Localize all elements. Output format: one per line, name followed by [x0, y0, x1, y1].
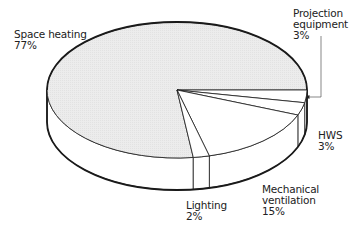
slice-lighting-side: [193, 156, 209, 190]
pie-chart: Space heating 77% Projection equipment 3…: [0, 0, 357, 238]
mech-vent-pct: 15%: [262, 206, 319, 217]
label-projection-equipment: Projection equipment 3%: [293, 8, 348, 41]
label-hws: HWS 3%: [318, 130, 342, 152]
label-space-heating: Space heating 77%: [14, 29, 87, 51]
projection-pct: 3%: [293, 30, 348, 41]
space-heating-pct: 77%: [14, 40, 87, 51]
label-lighting: Lighting 2%: [186, 200, 227, 222]
label-mechanical-ventilation: Mechanical ventilation 15%: [262, 184, 319, 217]
lighting-pct: 2%: [186, 211, 227, 222]
hws-pct: 3%: [318, 141, 342, 152]
